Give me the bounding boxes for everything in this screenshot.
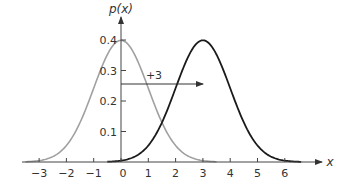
y-tick-label: 0.2 — [100, 95, 118, 108]
normal-distribution-shift-chart: −3−2−10123456 0.10.20.30.4 p(x) x +3 — [0, 0, 345, 184]
x-tick-label: 3 — [199, 167, 206, 180]
x-tick-label: 2 — [172, 167, 179, 180]
curves-group — [25, 40, 301, 161]
x-tick-label: 1 — [145, 167, 152, 180]
x-ticks: −3−2−10123456 — [31, 158, 288, 180]
x-tick-label: −1 — [86, 167, 102, 180]
axes-group: −3−2−10123456 0.10.20.30.4 p(x) x — [22, 2, 334, 180]
shift-annotation: +3 — [121, 69, 203, 84]
shift-label: +3 — [146, 69, 162, 82]
y-tick-label: 0.1 — [100, 126, 118, 139]
y-tick-label: 0.3 — [100, 65, 118, 78]
x-tick-label: 5 — [254, 167, 261, 180]
y-axis-title: p(x) — [108, 2, 133, 16]
x-tick-label: −3 — [31, 167, 47, 180]
x-tick-label: 6 — [281, 167, 288, 180]
x-tick-label: 4 — [227, 167, 234, 180]
y-ticks: 0.10.20.30.4 — [100, 34, 127, 139]
y-tick-label: 0.4 — [100, 34, 118, 47]
x-tick-label: −2 — [58, 167, 74, 180]
x-tick-label: 0 — [120, 167, 127, 180]
x-axis-title: x — [325, 155, 334, 169]
